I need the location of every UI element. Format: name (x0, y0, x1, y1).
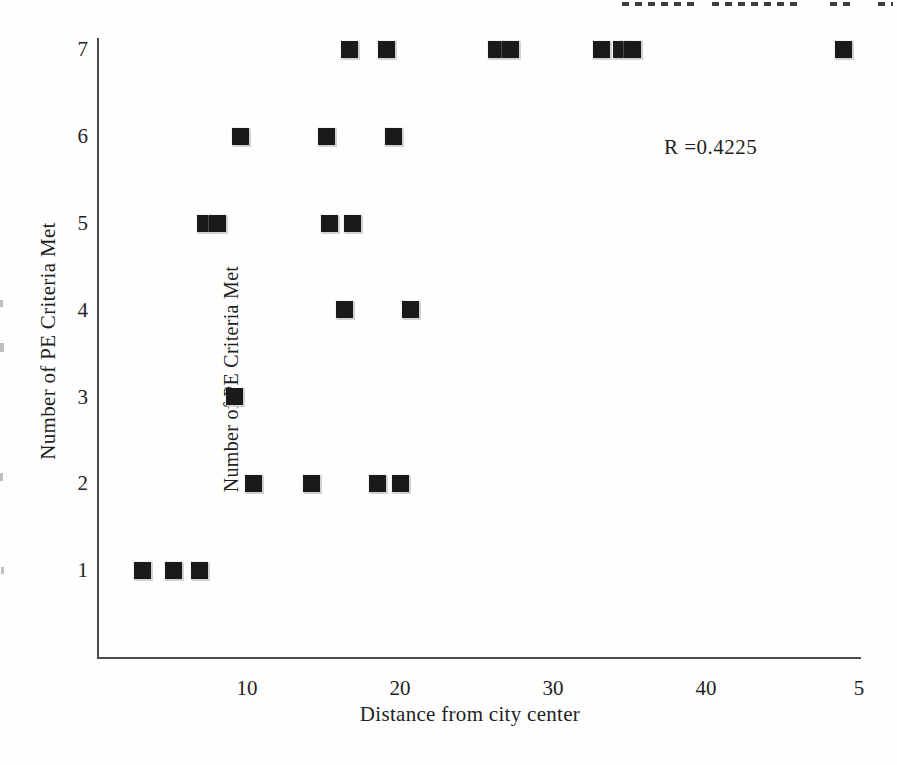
data-point (624, 41, 641, 58)
data-point (341, 41, 358, 58)
cropped-header-text (830, 2, 852, 6)
data-point (369, 475, 386, 492)
y-tick-label: 6 (48, 124, 88, 148)
correlation-annotation: R =0.4225 (664, 135, 757, 160)
data-point (191, 562, 208, 579)
y-tick-label: 7 (48, 37, 88, 61)
data-point (245, 475, 262, 492)
y-tick-label: 4 (48, 298, 88, 322)
data-point (336, 301, 353, 318)
y-axis-line (97, 38, 99, 659)
data-point (134, 562, 151, 579)
x-tick-label: 10 (225, 676, 269, 700)
data-point (344, 215, 361, 232)
data-point (392, 475, 409, 492)
x-axis-line (97, 657, 861, 659)
x-tick-label: 30 (531, 676, 575, 700)
scan-artifact (0, 473, 3, 481)
data-point (385, 128, 402, 145)
data-point (303, 475, 320, 492)
y-tick-label: 2 (48, 471, 88, 495)
scan-artifact (1, 567, 4, 574)
data-point (226, 388, 243, 405)
y-tick-label: 5 (48, 211, 88, 235)
data-point (232, 128, 249, 145)
x-axis-title: Distance from city center (360, 702, 580, 727)
x-tick-label: 20 (378, 676, 422, 700)
data-point (502, 41, 519, 58)
data-point (593, 41, 610, 58)
y-axis-title: Number of PE Criteria Met (36, 222, 61, 459)
data-point (378, 41, 395, 58)
data-point (165, 562, 182, 579)
data-point (402, 301, 419, 318)
inner-y-axis-title-duplicate: Number of PE Criteria Met (220, 266, 243, 492)
y-tick-label: 1 (48, 558, 88, 582)
scan-artifact (0, 300, 3, 307)
scan-artifact (0, 343, 4, 352)
data-point (321, 215, 338, 232)
data-point (209, 215, 226, 232)
cropped-header-text (712, 2, 800, 6)
data-point (835, 41, 852, 58)
scanned-figure-page: Number of PE Criteria Met Number of PE C… (0, 0, 897, 765)
x-tick-label: 40 (684, 676, 728, 700)
data-point (318, 128, 335, 145)
y-tick-label: 3 (48, 385, 88, 409)
x-tick-label: 5 (837, 676, 881, 700)
cropped-header-text (878, 2, 893, 6)
cropped-header-text (622, 2, 700, 6)
